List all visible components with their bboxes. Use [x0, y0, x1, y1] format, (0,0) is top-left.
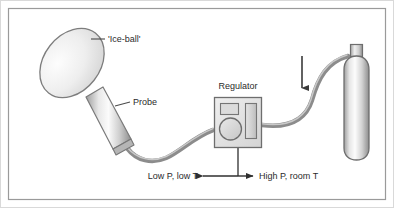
low-pressure-label: Low P, low T [148, 171, 199, 181]
regulator-display [221, 104, 239, 115]
regulator-label: Regulator [218, 81, 257, 91]
high-pressure-label: High P, room T [259, 171, 319, 181]
cylinder-valve-neck [351, 45, 363, 57]
ice-ball-label: 'Ice-ball' [108, 34, 141, 44]
regulator-gauge [220, 118, 242, 140]
probe-label: Probe [133, 97, 157, 107]
regulator-flow-slot [246, 104, 257, 139]
cryotherapy-diagram: 'Ice-ball' Probe Regulator Low P, low T … [0, 0, 394, 208]
cylinder-body [344, 56, 369, 160]
gas-cylinder [344, 45, 369, 161]
